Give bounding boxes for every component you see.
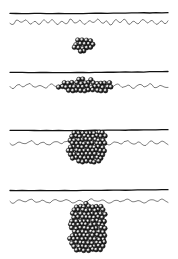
panel-3-particle-cluster xyxy=(66,130,107,164)
figure-root: Particle cluster growth at a fluid inter… xyxy=(0,0,178,259)
particle-sphere xyxy=(74,248,79,253)
particle-sphere xyxy=(86,248,91,253)
particle-sphere xyxy=(81,248,86,253)
particle-sphere xyxy=(71,88,76,93)
particle-sphere xyxy=(56,85,61,90)
particle-sphere xyxy=(103,134,108,139)
particle-sphere xyxy=(69,225,74,230)
particle-sphere xyxy=(94,247,99,252)
panel-4-particle-cluster xyxy=(67,201,107,252)
particle-sphere xyxy=(92,160,97,165)
particle-sphere xyxy=(78,88,83,93)
particle-sphere xyxy=(103,88,108,93)
particle-sphere xyxy=(75,80,80,85)
particle-sphere xyxy=(70,156,75,161)
particle-sphere xyxy=(102,141,107,146)
particle-sphere xyxy=(99,88,104,93)
particle-sphere xyxy=(101,207,106,212)
particle-sphere xyxy=(80,160,85,165)
particle-sphere xyxy=(96,159,101,164)
particle-sphere xyxy=(66,88,71,93)
particle-sphere xyxy=(109,85,114,90)
particle-sphere xyxy=(78,49,83,54)
particle-sphere xyxy=(98,134,103,139)
particle-sphere xyxy=(74,240,79,245)
particle-sphere xyxy=(90,87,95,92)
figure-canvas xyxy=(0,0,178,259)
particle-sphere xyxy=(82,89,87,94)
particle-sphere xyxy=(98,247,103,252)
